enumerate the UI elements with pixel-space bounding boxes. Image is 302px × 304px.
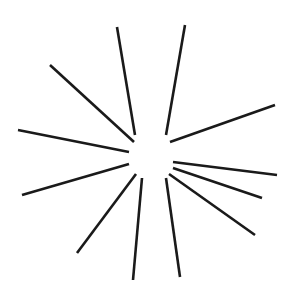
figure-background (0, 0, 302, 304)
starburst-figure: · ·· ·· ··· (0, 0, 302, 304)
starburst-canvas (0, 0, 302, 304)
